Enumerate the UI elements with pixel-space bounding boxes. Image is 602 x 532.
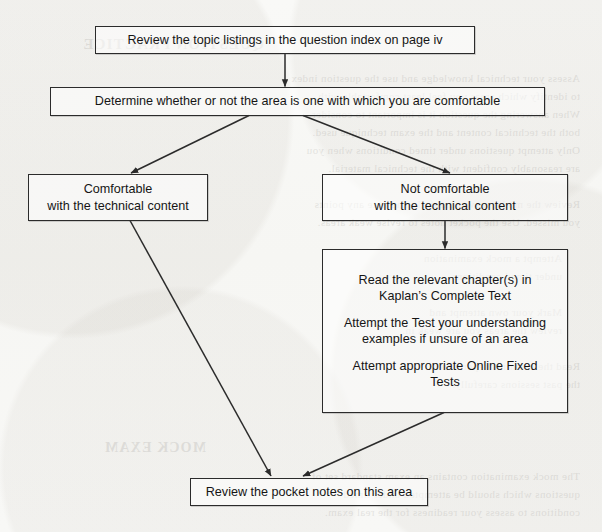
study-action-test-your-understanding: Attempt the Test your understanding exam… xyxy=(344,315,546,347)
study-action-line-1: Attempt the Test your understanding xyxy=(344,315,546,331)
node-text: Review the pocket notes on this area xyxy=(206,484,413,500)
study-action-line-2: Tests xyxy=(353,374,538,390)
study-action-line-1: Attempt appropriate Online Fixed xyxy=(353,358,538,374)
arrow-determine-to-not-comfortable xyxy=(303,116,450,174)
node-review-pocket-notes[interactable]: Review the pocket notes on this area xyxy=(190,478,428,506)
bleed-through-line: are reasonably confident with the techni… xyxy=(328,162,580,174)
node-text-line-2: with the technical content xyxy=(374,198,515,214)
node-text-line-2: with the technical content xyxy=(47,198,188,214)
study-action-online-fixed-tests: Attempt appropriate Online Fixed Tests xyxy=(353,358,538,390)
study-action-read-chapters: Read the relevant chapter(s) in Kaplan’s… xyxy=(359,272,532,304)
bleed-through-line: both the technical content and the exam … xyxy=(312,126,580,138)
bleed-through-line: Only attempt questions under timed condi… xyxy=(306,144,580,156)
node-not-comfortable[interactable]: Not comfortable with the technical conte… xyxy=(322,174,568,221)
node-comfortable[interactable]: Comfortable with the technical content xyxy=(28,174,208,221)
arrow-study-actions-to-pocket-notes xyxy=(303,413,444,477)
node-text-line-1: Not comfortable xyxy=(401,181,490,197)
bleed-through-line: Assess your technical knowledge and use … xyxy=(291,72,580,84)
study-action-line-2: examples if unsure of an area xyxy=(344,331,546,347)
node-text-line-1: Comfortable xyxy=(84,181,153,197)
flowchart-page: QUESTION PRACTICEAssess your technical k… xyxy=(0,0,602,532)
bleed-through-line: MOCK EXAM xyxy=(104,440,206,456)
node-text: Determine whether or not the area is one… xyxy=(95,93,500,109)
node-review-topic-listings[interactable]: Review the topic listings in the questio… xyxy=(95,26,475,54)
node-determine-comfortable[interactable]: Determine whether or not the area is one… xyxy=(50,87,545,116)
arrow-determine-to-comfortable xyxy=(131,116,249,174)
node-study-actions[interactable]: Read the relevant chapter(s) in Kaplan’s… xyxy=(322,249,568,413)
arrow-comfortable-to-pocket-notes xyxy=(130,221,271,477)
bleed-through-line: conditions to assess your readiness for … xyxy=(325,506,580,518)
node-text: Review the topic listings in the questio… xyxy=(127,32,442,48)
study-action-line-1: Read the relevant chapter(s) in xyxy=(359,272,532,288)
study-action-line-2: Kaplan’s Complete Text xyxy=(359,288,532,304)
